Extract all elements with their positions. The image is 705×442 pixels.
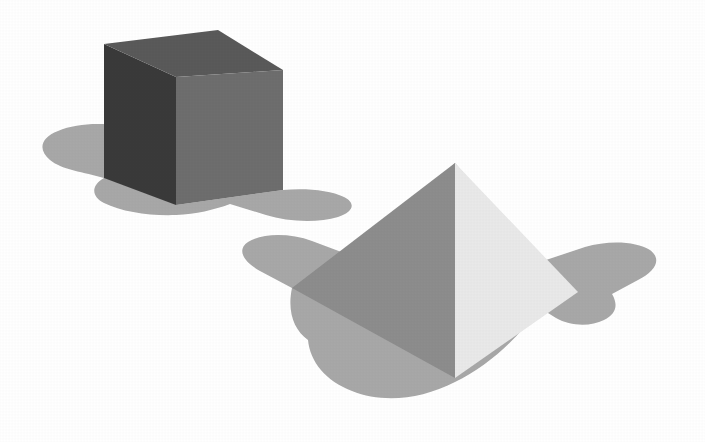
scene-root bbox=[0, 0, 705, 442]
cube-right-face bbox=[176, 70, 283, 205]
scene-canvas bbox=[0, 0, 705, 442]
